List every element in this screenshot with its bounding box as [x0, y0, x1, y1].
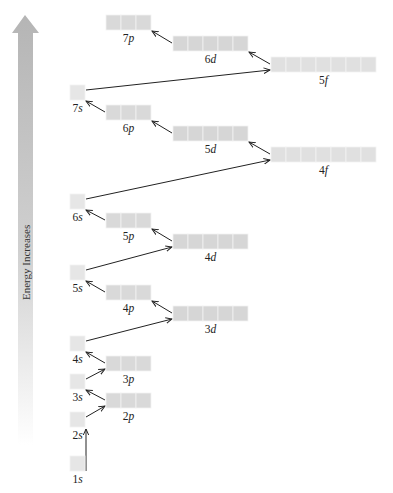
- orbital-box: [286, 147, 301, 162]
- fill-arrow-4d-to-5p: [152, 229, 172, 241]
- orbital-box: [301, 147, 316, 162]
- orbital-box: [286, 57, 301, 72]
- orbital-box: [331, 57, 346, 72]
- orbital-box: [136, 285, 151, 300]
- fill-arrow-4p-to-5s: [86, 281, 105, 292]
- orbital-box: [70, 265, 85, 280]
- aufbau-energy-diagram: Energy Increases 1s2s2p3s3p4s3d4p5s4d5p6…: [0, 0, 393, 493]
- orbital-box: [361, 147, 376, 162]
- orbital-box: [70, 336, 85, 351]
- orbital-box: [271, 57, 286, 72]
- orbital-label: 4p: [123, 302, 135, 315]
- orbital-5f: 5f: [271, 57, 376, 87]
- orbital-box: [121, 15, 136, 30]
- orbital-box: [106, 285, 121, 300]
- orbital-label: 4f: [319, 164, 330, 177]
- orbital-box: [121, 285, 136, 300]
- orbital-box: [233, 234, 248, 249]
- orbital-sublevels: 1s2s2p3s3p4s3d4p5s4d5p6s4f5d6p7s5f6d7p: [70, 15, 376, 485]
- orbital-box: [218, 234, 233, 249]
- orbital-label: 3p: [123, 373, 135, 386]
- orbital-box: [188, 306, 203, 321]
- orbital-label: 1s: [72, 473, 83, 485]
- fill-arrow-3p-to-4s: [86, 352, 105, 363]
- orbital-box: [121, 105, 136, 120]
- orbital-box: [121, 393, 136, 408]
- orbital-box: [173, 36, 188, 51]
- fill-arrow-5p-to-6s: [86, 210, 105, 220]
- fill-arrow-4s-to-3d: [86, 319, 172, 341]
- orbital-box: [70, 456, 85, 471]
- orbital-box: [136, 105, 151, 120]
- orbital-2p: 2p: [106, 393, 151, 423]
- orbital-label: 6d: [205, 53, 217, 65]
- orbital-4f: 4f: [271, 147, 376, 177]
- orbital-box: [136, 393, 151, 408]
- orbital-label: 5d: [205, 143, 217, 155]
- orbital-box: [173, 234, 188, 249]
- orbital-box: [361, 57, 376, 72]
- orbital-5d: 5d: [173, 126, 248, 155]
- orbital-label: 5p: [123, 230, 135, 243]
- fill-arrow-5s-to-4d: [86, 247, 172, 270]
- orbital-box: [271, 147, 286, 162]
- orbital-label: 7p: [123, 32, 135, 45]
- orbital-6s: 6s: [70, 194, 85, 223]
- orbital-3d: 3d: [173, 306, 248, 335]
- orbital-label: 3s: [72, 391, 83, 403]
- orbital-box: [218, 306, 233, 321]
- orbital-box: [136, 356, 151, 371]
- orbital-label: 7s: [72, 102, 83, 114]
- fill-arrow-2s-to-2p: [86, 406, 105, 417]
- orbital-label: 6p: [123, 122, 135, 135]
- orbital-label: 5s: [72, 282, 83, 294]
- orbital-box: [301, 57, 316, 72]
- orbital-box: [233, 306, 248, 321]
- orbital-1s: 1s: [70, 456, 85, 485]
- energy-axis-label: Energy Increases: [20, 225, 32, 300]
- orbital-box: [346, 147, 361, 162]
- fill-arrow-3d-to-4p: [152, 301, 172, 313]
- orbital-box: [346, 57, 361, 72]
- orbital-box: [70, 85, 85, 100]
- orbital-box: [188, 234, 203, 249]
- orbital-label: 2p: [123, 410, 135, 423]
- orbital-box: [203, 234, 218, 249]
- orbital-box: [70, 412, 85, 427]
- orbital-6d: 6d: [173, 36, 248, 65]
- orbital-5s: 5s: [70, 265, 85, 294]
- fill-arrow-3s-to-3p: [86, 369, 105, 379]
- orbital-box: [218, 36, 233, 51]
- orbital-box: [173, 126, 188, 141]
- orbital-box: [136, 15, 151, 30]
- fill-arrow-6p-to-7s: [86, 101, 105, 112]
- orbital-box: [70, 194, 85, 209]
- orbital-box: [233, 36, 248, 51]
- orbital-box: [106, 393, 121, 408]
- orbital-label: 3d: [205, 323, 217, 335]
- fill-arrow-6s-to-4f: [86, 160, 270, 199]
- orbital-box: [106, 15, 121, 30]
- orbital-7s: 7s: [70, 85, 85, 114]
- orbital-box: [316, 57, 331, 72]
- orbital-box: [121, 356, 136, 371]
- orbital-box: [316, 147, 331, 162]
- orbital-7p: 7p: [106, 15, 151, 45]
- orbital-box: [188, 126, 203, 141]
- orbital-box: [233, 126, 248, 141]
- orbital-label: 4d: [205, 251, 217, 263]
- orbital-box: [106, 213, 121, 228]
- orbital-box: [106, 356, 121, 371]
- orbital-box: [203, 36, 218, 51]
- orbital-box: [218, 126, 233, 141]
- fill-arrow-2p-to-3s: [86, 390, 105, 400]
- fill-arrow-4f-to-5d: [249, 142, 270, 154]
- orbital-3p: 3p: [106, 356, 151, 386]
- orbital-box: [331, 147, 346, 162]
- energy-axis: Energy Increases: [12, 15, 39, 445]
- orbital-3s: 3s: [70, 374, 85, 403]
- fill-arrow-5d-to-6p: [152, 121, 172, 133]
- orbital-label: 6s: [72, 211, 83, 223]
- orbital-4p: 4p: [106, 285, 151, 315]
- fill-arrow-7s-to-5f: [86, 70, 270, 90]
